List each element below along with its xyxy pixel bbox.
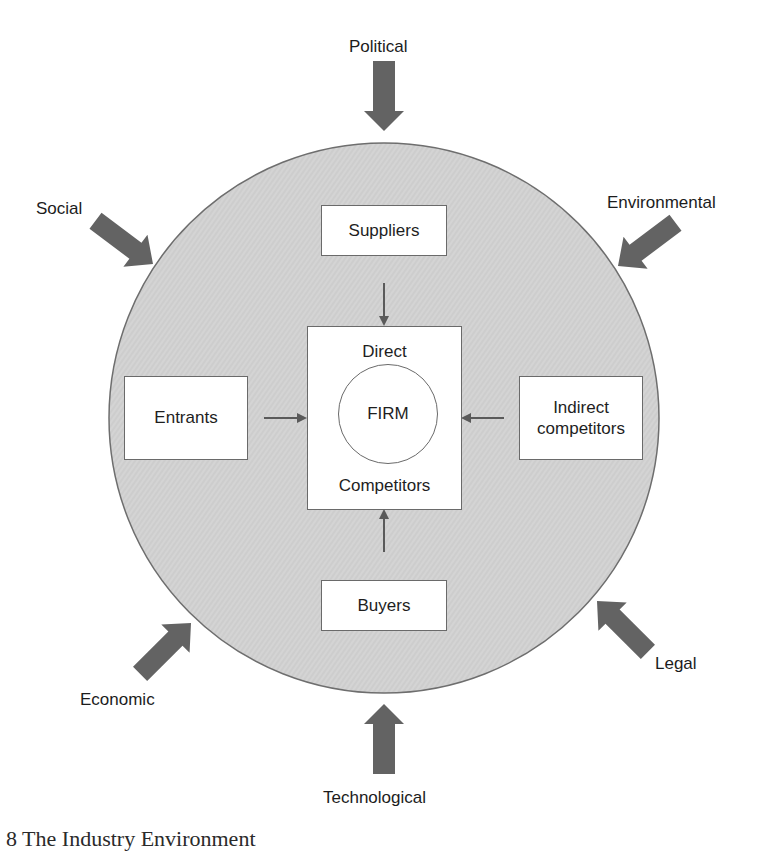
force-label-political: Political: [349, 37, 408, 57]
direct-competitors-box: Direct FIRM Competitors: [307, 326, 462, 510]
suppliers-label: Suppliers: [349, 220, 420, 241]
technological-arrow-icon: [364, 704, 404, 774]
indirect-competitors-label-line2: competitors: [537, 418, 625, 439]
firm-circle: FIRM: [338, 364, 438, 464]
force-label-legal: Legal: [655, 654, 697, 674]
firm-label: FIRM: [367, 403, 409, 424]
entrants-label: Entrants: [154, 407, 217, 428]
competitors-label: Competitors: [308, 475, 461, 496]
buyers-box: Buyers: [321, 580, 447, 631]
force-label-economic: Economic: [80, 690, 155, 710]
legal-arrow-icon: [583, 587, 662, 666]
entrants-box: Entrants: [124, 376, 248, 460]
direct-label: Direct: [308, 341, 461, 362]
indirect-competitors-label-line1: Indirect: [553, 397, 609, 418]
force-label-technological: Technological: [323, 788, 426, 808]
force-label-social: Social: [36, 199, 82, 219]
buyers-label: Buyers: [358, 595, 411, 616]
figure-caption: 8 The Industry Environment: [6, 826, 256, 852]
political-arrow-icon: [364, 61, 404, 131]
environmental-arrow-icon: [606, 207, 688, 282]
economic-arrow-icon: [126, 609, 205, 688]
indirect-competitors-box: Indirect competitors: [519, 376, 643, 460]
suppliers-box: Suppliers: [321, 205, 447, 256]
force-label-environmental: Environmental: [607, 193, 716, 213]
